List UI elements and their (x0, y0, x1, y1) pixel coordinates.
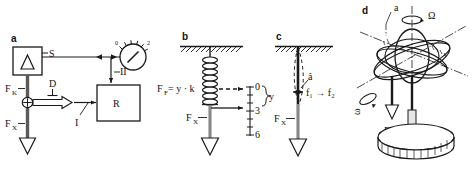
damper-hollow-arrow-icon (33, 97, 72, 109)
force-x-label-b: F (186, 112, 192, 123)
amplitude-arrow-left (293, 90, 297, 94)
panel-c: c â f₁ → f₂ F X (274, 31, 335, 156)
panel-a-id: a (11, 33, 17, 44)
scale-value-0: 0 (255, 81, 260, 92)
figure-canvas: a S F K F X D I R (0, 0, 473, 170)
scale-value-3: 3 (255, 105, 260, 116)
panel-a: a S F K F X D I R (5, 33, 150, 154)
ceiling-hatching-b (181, 47, 241, 52)
coil-spring (203, 57, 218, 105)
resistor-box-label: R (113, 98, 120, 109)
force-x-arrowhead-c (290, 139, 307, 156)
panel-c-id: c (276, 31, 282, 42)
bus-arrowhead-left (96, 54, 102, 59)
panel-b-id: b (182, 31, 188, 42)
force-x-arrowhead-d (386, 105, 399, 119)
ceiling-hatching-c (276, 47, 331, 52)
frequency-transition-label: f₁ → f₂ (306, 87, 335, 98)
technical-figure: a S F K F X D I R (0, 0, 473, 170)
panel-d: d Ω a (351, 2, 468, 159)
panel-d-id: d (362, 5, 368, 16)
scale-value-6: 6 (255, 129, 260, 140)
spring-force-formula-rest: = y · k (168, 83, 194, 94)
force-x-subscript-b: X (193, 118, 198, 126)
acceleration-label-d: a (394, 2, 399, 13)
force-x-arrowhead-a (20, 138, 36, 154)
damper-label: D (49, 78, 56, 89)
bus-arrowhead-right (111, 54, 117, 59)
signal-one-label: I (75, 117, 78, 128)
displacement-label-y: y (269, 91, 274, 102)
force-k-label: F (5, 83, 11, 94)
gauge-tick-label-2: 2 (147, 40, 150, 46)
force-k-subscript: K (12, 89, 17, 97)
force-x-subscript-a: X (12, 124, 17, 132)
omega-small-arrowhead (372, 104, 376, 108)
force-x-label-a: F (5, 118, 11, 129)
panel-b: b (157, 31, 274, 155)
gauge-tick-label-0: 0 (115, 40, 118, 46)
omega-small-label: ω (351, 108, 362, 115)
spring-force-formula-sym: F (157, 83, 163, 94)
force-x-subscript-c: X (281, 119, 286, 127)
amplitude-label: â (308, 71, 313, 82)
omega-big-label: Ω (428, 10, 435, 21)
signal-one-leader (80, 103, 88, 115)
force-x-label-c: F (274, 113, 280, 124)
force-x-arrowhead-b (202, 138, 219, 155)
acceleration-leader-d (386, 12, 391, 24)
